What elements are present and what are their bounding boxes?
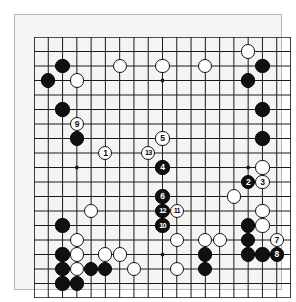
stone-white[interactable] bbox=[113, 247, 127, 261]
board-frame: 95113423612111078 bbox=[14, 14, 282, 290]
stone-white[interactable] bbox=[227, 189, 241, 203]
move-stone-2[interactable]: 2 bbox=[241, 175, 255, 189]
move-number-label: 3 bbox=[260, 178, 264, 187]
stone-white[interactable] bbox=[70, 73, 84, 87]
stone-black[interactable] bbox=[55, 59, 69, 73]
move-number-label: 1 bbox=[103, 149, 107, 158]
stone-white[interactable] bbox=[70, 233, 84, 247]
stone-layer: 95113423612111078 bbox=[34, 37, 291, 298]
move-stone-12[interactable]: 12 bbox=[155, 204, 169, 218]
move-stone-4[interactable]: 4 bbox=[155, 160, 169, 174]
move-stone-13[interactable]: 13 bbox=[141, 146, 155, 160]
stone-black[interactable] bbox=[41, 73, 55, 87]
move-stone-9[interactable]: 9 bbox=[70, 117, 84, 131]
stone-white[interactable] bbox=[84, 204, 98, 218]
stone-white[interactable] bbox=[70, 262, 84, 276]
move-number-label: 11 bbox=[174, 207, 180, 214]
stone-black[interactable] bbox=[84, 262, 98, 276]
move-number-label: 6 bbox=[160, 192, 164, 201]
move-number-label: 7 bbox=[275, 236, 279, 245]
stone-black[interactable] bbox=[55, 262, 69, 276]
stone-black[interactable] bbox=[70, 276, 84, 290]
stone-white[interactable] bbox=[241, 44, 255, 58]
stone-white[interactable] bbox=[213, 233, 227, 247]
stone-white[interactable] bbox=[255, 160, 269, 174]
move-number-label: 12 bbox=[159, 207, 165, 214]
move-number-label: 4 bbox=[160, 163, 164, 172]
stone-black[interactable] bbox=[70, 131, 84, 145]
stone-black[interactable] bbox=[55, 218, 69, 232]
move-stone-5[interactable]: 5 bbox=[155, 131, 169, 145]
move-number-label: 9 bbox=[75, 120, 79, 129]
move-number-label: 13 bbox=[145, 149, 151, 156]
stone-black[interactable] bbox=[255, 102, 269, 116]
stone-black[interactable] bbox=[241, 247, 255, 261]
go-board[interactable]: 95113423612111078 bbox=[34, 37, 291, 298]
move-stone-3[interactable]: 3 bbox=[255, 175, 269, 189]
stone-black[interactable] bbox=[98, 262, 112, 276]
stone-black[interactable] bbox=[241, 218, 255, 232]
move-number-label: 8 bbox=[275, 250, 279, 259]
stone-white[interactable] bbox=[98, 247, 112, 261]
move-stone-1[interactable]: 1 bbox=[98, 146, 112, 160]
stone-black[interactable] bbox=[255, 131, 269, 145]
stone-white[interactable] bbox=[170, 262, 184, 276]
stone-black[interactable] bbox=[55, 102, 69, 116]
stone-black[interactable] bbox=[255, 247, 269, 261]
diagram-page: 95113423612111078 bbox=[0, 0, 296, 302]
stone-black[interactable] bbox=[255, 59, 269, 73]
stone-black[interactable] bbox=[241, 233, 255, 247]
stone-white[interactable] bbox=[70, 247, 84, 261]
move-stone-10[interactable]: 10 bbox=[155, 218, 169, 232]
move-number-label: 10 bbox=[159, 222, 165, 229]
stone-black[interactable] bbox=[198, 247, 212, 261]
stone-white[interactable] bbox=[170, 233, 184, 247]
move-stone-8[interactable]: 8 bbox=[270, 247, 284, 261]
stone-black[interactable] bbox=[55, 247, 69, 261]
stone-white[interactable] bbox=[155, 59, 169, 73]
move-number-label: 2 bbox=[246, 178, 250, 187]
stone-white[interactable] bbox=[113, 59, 127, 73]
stone-black[interactable] bbox=[198, 262, 212, 276]
stone-black[interactable] bbox=[241, 73, 255, 87]
stone-white[interactable] bbox=[255, 218, 269, 232]
move-stone-7[interactable]: 7 bbox=[270, 233, 284, 247]
stone-white[interactable] bbox=[255, 204, 269, 218]
stone-black[interactable] bbox=[55, 276, 69, 290]
stone-white[interactable] bbox=[198, 233, 212, 247]
move-stone-11[interactable]: 11 bbox=[170, 204, 184, 218]
move-number-label: 5 bbox=[160, 134, 164, 143]
stone-white[interactable] bbox=[198, 59, 212, 73]
stone-white[interactable] bbox=[127, 262, 141, 276]
move-stone-6[interactable]: 6 bbox=[155, 189, 169, 203]
